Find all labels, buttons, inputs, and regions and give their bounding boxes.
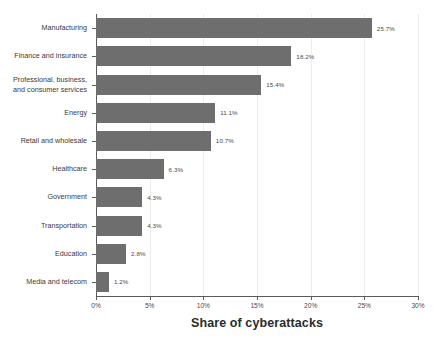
- bar-chart: ManufacturingFinance and insuranceProfes…: [0, 0, 433, 345]
- y-tick-label: Finance and insurance: [14, 51, 87, 61]
- y-tick-label: Professional, business,and consumer serv…: [13, 75, 87, 94]
- y-tick-label-line: Energy: [64, 108, 87, 118]
- bar-rows: 25.7%18.2%15.4%11.1%10.7%6.3%4.3%4.3%2.8…: [96, 14, 418, 296]
- y-tick-label-line: Retail and wholesale: [21, 136, 87, 146]
- bar: [96, 187, 142, 207]
- bar: [96, 272, 109, 292]
- bar: [96, 131, 211, 151]
- bar: [96, 159, 164, 179]
- y-tick-label-line: Government: [47, 192, 87, 202]
- y-tick-label-line: Finance and insurance: [14, 51, 87, 61]
- x-tick-mark: [150, 296, 151, 300]
- bar: [96, 216, 142, 236]
- x-tick-label: 25%: [358, 302, 371, 309]
- x-tick-mark: [364, 296, 365, 300]
- x-tick-label: 5%: [145, 302, 155, 309]
- bar: [96, 75, 261, 95]
- bar-value-label: 4.3%: [147, 222, 162, 229]
- y-tick-label-line: Professional, business,: [13, 75, 87, 85]
- x-tick-mark: [418, 296, 419, 300]
- gridline: [418, 14, 419, 296]
- bar-row: 1.2%: [96, 272, 418, 292]
- y-tick-label: Government: [47, 192, 87, 202]
- x-tick-mark: [203, 296, 204, 300]
- y-tick-label: Education: [55, 249, 87, 259]
- x-tick-label: 15%: [250, 302, 263, 309]
- bar: [96, 103, 215, 123]
- y-axis-tick-labels: ManufacturingFinance and insuranceProfes…: [0, 14, 96, 296]
- bar: [96, 18, 372, 38]
- bar-row: 6.3%: [96, 159, 418, 179]
- bar-row: 4.3%: [96, 216, 418, 236]
- y-tick-label-line: Media and telecom: [26, 277, 87, 287]
- x-tick-mark: [257, 296, 258, 300]
- y-tick-label-line: Healthcare: [52, 164, 87, 174]
- y-tick-label: Manufacturing: [41, 23, 87, 33]
- bar-row: 2.8%: [96, 244, 418, 264]
- y-tick-label: Media and telecom: [26, 277, 87, 287]
- plot-area: 25.7%18.2%15.4%11.1%10.7%6.3%4.3%4.3%2.8…: [96, 14, 418, 296]
- bar-value-label: 11.1%: [220, 109, 238, 116]
- y-tick-label-line: Education: [55, 249, 87, 259]
- y-tick-label-line: Transportation: [41, 221, 87, 231]
- bar-value-label: 2.8%: [131, 250, 146, 257]
- bar-value-label: 10.7%: [216, 137, 234, 144]
- bar-row: 11.1%: [96, 103, 418, 123]
- y-tick-label: Transportation: [41, 221, 87, 231]
- bar-value-label: 6.3%: [169, 166, 184, 173]
- y-tick-label-line: and consumer services: [13, 85, 87, 95]
- x-tick-label: 10%: [197, 302, 210, 309]
- bar-row: 18.2%: [96, 46, 418, 66]
- y-tick-label: Healthcare: [52, 164, 87, 174]
- bar-row: 4.3%: [96, 187, 418, 207]
- bar-value-label: 15.4%: [266, 81, 284, 88]
- bar-value-label: 1.2%: [114, 278, 129, 285]
- x-tick-mark: [311, 296, 312, 300]
- x-axis-title: Share of cyberattacks: [96, 316, 418, 330]
- bar-value-label: 4.3%: [147, 194, 162, 201]
- bar-row: 15.4%: [96, 75, 418, 95]
- x-tick-label: 0%: [91, 302, 101, 309]
- bar: [96, 244, 126, 264]
- bar: [96, 46, 291, 66]
- bar-value-label: 25.7%: [377, 25, 395, 32]
- x-tick-mark: [96, 296, 97, 300]
- bar-value-label: 18.2%: [296, 53, 314, 60]
- bar-row: 25.7%: [96, 18, 418, 38]
- x-axis-tick-labels: 0%5%10%15%20%25%30%: [96, 296, 418, 316]
- bar-row: 10.7%: [96, 131, 418, 151]
- y-tick-label-line: Manufacturing: [41, 23, 87, 33]
- y-tick-label: Energy: [64, 108, 87, 118]
- x-tick-label: 30%: [411, 302, 424, 309]
- x-tick-label: 20%: [304, 302, 317, 309]
- y-tick-label: Retail and wholesale: [21, 136, 87, 146]
